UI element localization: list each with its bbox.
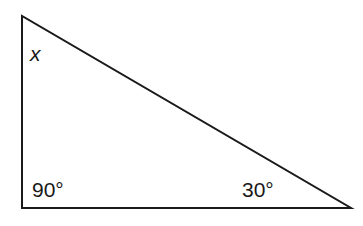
triangle-diagram: x 90° 30°	[0, 0, 363, 226]
acute-angle-label: 30°	[242, 178, 274, 201]
right-angle-label: 90°	[32, 178, 64, 201]
top-angle-label: x	[29, 42, 42, 65]
triangle-shape	[22, 16, 351, 208]
